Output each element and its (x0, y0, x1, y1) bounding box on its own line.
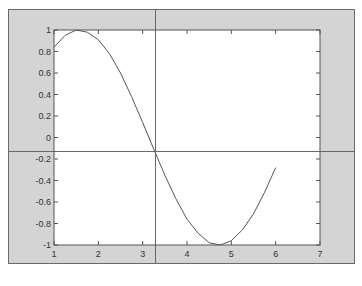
x-tick-label: 1 (51, 249, 56, 259)
y-tick-label: -0.8 (35, 219, 51, 229)
y-tick-label: -0.2 (35, 154, 51, 164)
axes-area[interactable] (54, 30, 320, 245)
y-tick-label: 0.4 (38, 90, 51, 100)
y-tick-label: 1 (46, 25, 51, 35)
x-tick-label: 4 (184, 249, 189, 259)
x-tick-label: 6 (273, 249, 278, 259)
y-tick-label: -0.6 (35, 197, 51, 207)
y-tick-label: 0.2 (38, 111, 51, 121)
y-tick-label: -1 (43, 240, 51, 250)
x-tick-label: 2 (96, 249, 101, 259)
y-tick-label: 0.8 (38, 47, 51, 57)
y-tick-label: 0 (46, 133, 51, 143)
y-tick-label: 0.6 (38, 68, 51, 78)
line-chart: 123456710.80.60.40.20-0.2-0.4-0.6-0.8-1 (0, 0, 362, 286)
x-tick-label: 3 (140, 249, 145, 259)
y-tick-label: -0.4 (35, 176, 51, 186)
x-tick-label: 5 (229, 249, 234, 259)
x-tick-label: 7 (317, 249, 322, 259)
